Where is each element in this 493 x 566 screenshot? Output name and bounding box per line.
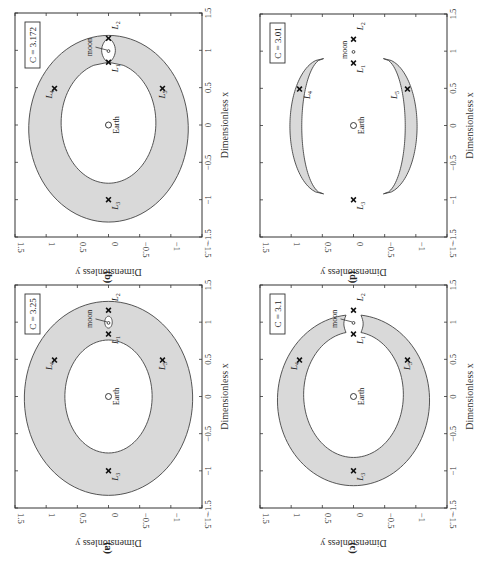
- panel-label: (d): [347, 271, 359, 283]
- y-tick-label: −1: [417, 242, 427, 251]
- y-tick-label: 0: [355, 513, 365, 517]
- moon-marker: [107, 322, 110, 325]
- y-tick-label: −0.5: [386, 242, 396, 257]
- y-tick-label: 0.5: [323, 513, 333, 524]
- L2-label: L2: [356, 293, 367, 302]
- x-tick-label: −0.5: [203, 426, 213, 441]
- moon-label: moon: [331, 310, 340, 328]
- y-tick-label: −1: [172, 513, 182, 522]
- x-tick-label: −1: [448, 195, 458, 204]
- L5-subscript: 5: [394, 91, 400, 94]
- L3-subscript: 3: [116, 473, 122, 476]
- y-tick-label: 1: [47, 513, 57, 517]
- y-tick-label: 1.5: [16, 242, 26, 253]
- x-tick-label: 1: [448, 49, 458, 53]
- x-tick-label: −1: [203, 466, 213, 475]
- panel-b: −1.5−1−0.500.511.51.510.50−0.5−1−1.5Dime…: [15, 8, 230, 283]
- y-tick-label: −1.5: [448, 242, 458, 257]
- x-tick-label: 0: [203, 394, 213, 398]
- x-axis-label: Dimensionless x: [219, 92, 230, 158]
- y-tick-label: 1.5: [16, 513, 26, 524]
- y-tick-label: 0: [110, 242, 120, 246]
- x-tick-label: 1.5: [448, 280, 458, 291]
- L5-subscript: 5: [162, 362, 168, 365]
- moon-marker: [107, 50, 110, 53]
- x-axis-label: Dimensionless x: [464, 92, 475, 158]
- panel-a: −1.5−1−0.500.511.51.510.50−0.5−1−1.5Dime…: [15, 280, 230, 554]
- L2-label: L2: [111, 21, 122, 30]
- y-tick-label: 1.5: [261, 242, 271, 253]
- L1-label: L1: [111, 64, 122, 73]
- y-tick-label: 1.5: [261, 513, 271, 524]
- x-tick-label: −0.5: [448, 426, 458, 441]
- L4-subscript: 4: [49, 362, 55, 365]
- x-tick-label: −1: [203, 195, 213, 204]
- x-tick-label: 0: [203, 123, 213, 127]
- x-tick-label: 1.5: [203, 8, 213, 19]
- earth-label: Earth: [357, 388, 366, 405]
- moon-label: moon: [86, 38, 95, 56]
- y-tick-label: 1: [47, 242, 57, 246]
- L2-subscript: 2: [116, 21, 122, 24]
- L3-subscript: 3: [116, 202, 122, 205]
- x-tick-label: 1: [203, 48, 213, 52]
- x-tick-label: 0.5: [448, 83, 458, 94]
- y-tick-label: 0: [355, 242, 365, 246]
- moon-label: moon: [86, 310, 95, 328]
- L1-subscript: 1: [361, 65, 367, 68]
- y-tick-label: −0.5: [141, 513, 151, 528]
- earth-label: Earth: [357, 117, 366, 134]
- y-tick-label: 1: [292, 242, 302, 246]
- y-tick-label: 0: [110, 513, 120, 517]
- L1-label: L1: [356, 336, 367, 345]
- L2-subscript: 2: [361, 293, 367, 296]
- L3-subscript: 3: [361, 473, 367, 476]
- y-tick-label: −1.5: [203, 513, 213, 528]
- jacobi-constant-label: C = 3.01: [273, 27, 283, 58]
- x-tick-label: 0: [448, 123, 458, 127]
- y-tick-label: 0.5: [323, 242, 333, 253]
- x-tick-label: 1: [203, 320, 213, 324]
- earth-label: Earth: [112, 388, 121, 405]
- y-tick-label: −1.5: [203, 242, 213, 257]
- L1-label: L1: [356, 65, 367, 74]
- moon-marker: [352, 51, 355, 54]
- x-tick-label: 0.5: [203, 82, 213, 93]
- x-tick-label: 1: [448, 320, 458, 324]
- panel-c: −1.5−1−0.500.511.51.510.50−0.5−1−1.5Dime…: [260, 280, 475, 554]
- forbidden-region: [277, 315, 429, 486]
- x-tick-label: 0.5: [203, 354, 213, 365]
- L3-label: L3: [356, 202, 367, 211]
- L5-subscript: 5: [162, 90, 168, 93]
- y-tick-label: 0.5: [78, 242, 88, 253]
- L4-subscript: 4: [49, 90, 55, 93]
- L4-subscript: 4: [294, 362, 300, 365]
- jacobi-constant-label: C = 3.1: [273, 301, 283, 328]
- panel-d: −1.5−1−0.500.511.51.510.50−0.5−1−1.5Dime…: [260, 9, 475, 283]
- L2-label: L2: [356, 22, 367, 31]
- L2-subscript: 2: [361, 22, 367, 25]
- panel-label: (c): [347, 542, 359, 553]
- x-axis-label: Dimensionless x: [464, 363, 475, 429]
- L4-subscript: 4: [307, 91, 313, 94]
- moon-label: moon: [341, 41, 350, 59]
- zero-velocity-curves-figure: −1.5−1−0.500.511.51.510.50−0.5−1−1.5Dime…: [0, 0, 493, 566]
- L5-subscript: 5: [407, 362, 413, 365]
- y-tick-label: −1.5: [448, 513, 458, 528]
- L3-subscript: 3: [361, 202, 367, 205]
- L1-subscript: 1: [116, 64, 122, 67]
- y-tick-label: −1: [417, 513, 427, 522]
- x-tick-label: −0.5: [203, 155, 213, 170]
- earth-label: Earth: [112, 116, 121, 133]
- L2-subscript: 2: [116, 293, 122, 296]
- jacobi-constant-label: C = 3.172: [28, 27, 38, 63]
- x-tick-label: −1: [448, 466, 458, 475]
- x-axis-label: Dimensionless x: [219, 363, 230, 429]
- L1-subscript: 1: [361, 336, 367, 339]
- y-tick-label: 0.5: [78, 513, 88, 524]
- x-tick-label: 0: [448, 394, 458, 398]
- L2-label: L2: [111, 293, 122, 302]
- x-tick-label: 1.5: [203, 280, 213, 291]
- y-tick-label: −0.5: [141, 242, 151, 257]
- moon-marker: [352, 322, 355, 325]
